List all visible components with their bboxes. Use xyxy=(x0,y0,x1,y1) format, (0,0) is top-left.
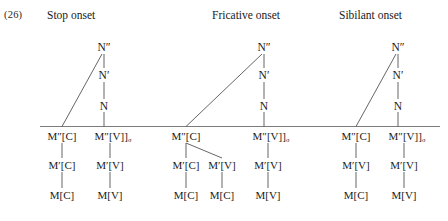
stop-node-mdouble-v: M″[V]]σ xyxy=(95,131,132,142)
fricative-node-mdouble-v-subscript: σ xyxy=(286,136,290,143)
sibilant-node-mdouble-c: M″[C] xyxy=(341,131,370,142)
sibilant-node-n-double-bar: N″ xyxy=(391,42,404,54)
fricative-node-msingle-c: M′[C] xyxy=(173,160,200,171)
fricative-node-msingle-v-branch: M′[V] xyxy=(208,160,235,171)
fricative-node-m-c-left: M[C] xyxy=(174,190,198,201)
sibilant-node-mdouble-v: M″[V]]σ xyxy=(389,131,426,142)
fricative-node-msingle-v: M′[V] xyxy=(254,160,281,171)
fricative-node-n-single-bar: N′ xyxy=(259,70,270,82)
sibilant-node-n-bar: N xyxy=(394,101,402,113)
sibilant-node-m-v: M[V] xyxy=(391,190,416,201)
sibilant-node-mdouble-v-subscript: σ xyxy=(422,136,426,143)
stop-branch-ndouble-to-onset-slot xyxy=(62,54,102,127)
sibilant-node-msingle-v: M′[V] xyxy=(390,160,417,171)
tree-line-layer xyxy=(0,0,448,221)
fricative-node-mdouble-v-text: M″[V]] xyxy=(253,130,286,142)
fricative-node-mdouble-v: M″[V]]σ xyxy=(253,131,290,142)
sibilant-node-m-c: M[C] xyxy=(344,190,368,201)
fricative-node-m-c-right: M[C] xyxy=(210,190,234,201)
stop-node-m-c: M[C] xyxy=(50,190,74,201)
stop-node-mdouble-v-subscript: σ xyxy=(128,136,132,143)
stop-node-n-double-bar: N″ xyxy=(97,42,110,54)
sibilant-branch-ndouble-to-onset-slot xyxy=(356,54,396,127)
linguistic-tree-figure: (26) Stop onset Fricative onset Sibilant… xyxy=(0,0,448,221)
sibilant-node-n-single-bar: N′ xyxy=(393,70,404,82)
sibilant-node-mdouble-v-text: M″[V]] xyxy=(389,130,422,142)
stop-node-msingle-v: M′[V] xyxy=(96,160,123,171)
stop-node-n-bar: N xyxy=(100,101,108,113)
fricative-branch-ndouble-to-onset-slot xyxy=(186,54,262,127)
stop-node-mdouble-v-text: M″[V]] xyxy=(95,130,128,142)
stop-node-n-single-bar: N′ xyxy=(99,70,110,82)
stop-node-msingle-c: M′[C] xyxy=(49,160,76,171)
sibilant-node-msingle-v-onset: M′[V] xyxy=(342,160,369,171)
stop-node-m-v: M[V] xyxy=(97,190,122,201)
fricative-node-m-v: M[V] xyxy=(255,190,280,201)
fricative-node-n-bar: N xyxy=(260,101,268,113)
fricative-branch-mdouble-c-to-msingle-v xyxy=(186,143,222,158)
fricative-node-n-double-bar: N″ xyxy=(257,42,270,54)
fricative-node-mdouble-c: M″[C] xyxy=(171,131,200,142)
stop-node-mdouble-c: M″[C] xyxy=(47,131,76,142)
